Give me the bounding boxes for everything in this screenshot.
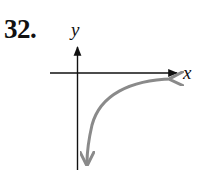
y-axis-label: y bbox=[69, 19, 80, 40]
function-curve bbox=[87, 79, 172, 163]
graph: y x bbox=[0, 0, 199, 179]
x-axis-label: x bbox=[182, 62, 192, 83]
